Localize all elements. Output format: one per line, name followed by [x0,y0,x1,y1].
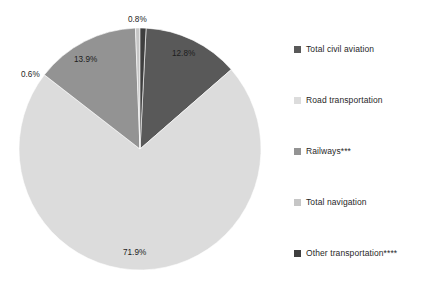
slice-label-road-transportation: 71.9% [123,249,146,257]
slice-label-total-civil-aviation: 12.8% [172,50,195,58]
legend-item-label: Total civil aviation [306,45,374,54]
pie-chart: 0.8% 12.8% 13.9% 0.6% 71.9% Total civil … [0,0,422,291]
pie-plot-area: 0.8% 12.8% 13.9% 0.6% 71.9% [0,0,280,291]
legend-item-label: Railways*** [306,147,351,156]
pie-slice-group [19,28,261,270]
slice-label-total-navigation: 0.6% [21,71,40,79]
legend-item-total-navigation[interactable]: Total navigation [294,198,367,207]
legend-swatch-icon [294,148,301,155]
legend-item-railways[interactable]: Railways*** [294,147,351,156]
legend-swatch-icon [294,250,301,257]
legend-swatch-icon [294,199,301,206]
legend-swatch-icon [294,97,301,104]
legend-item-label: Other transportation**** [306,249,397,258]
legend-item-label: Road transportation [306,96,383,105]
legend-item-road-transportation[interactable]: Road transportation [294,96,383,105]
legend-swatch-icon [294,46,301,53]
legend: Total civil aviation Road transportation… [290,0,422,291]
slice-label-other-transportation: 0.8% [128,16,147,24]
legend-item-total-civil-aviation[interactable]: Total civil aviation [294,45,374,54]
legend-item-label: Total navigation [306,198,367,207]
legend-item-other-transportation[interactable]: Other transportation**** [294,249,397,258]
slice-label-railways: 13.9% [74,56,97,64]
